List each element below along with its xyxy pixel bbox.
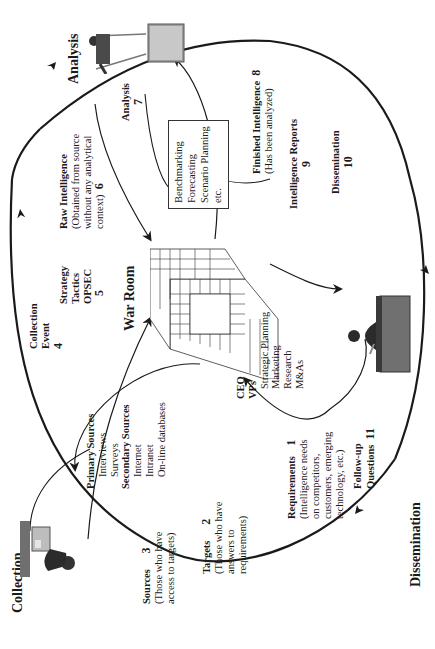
dissemination-step-title: Dissemination bbox=[330, 130, 342, 194]
requirements-number: 1 bbox=[284, 440, 298, 446]
tactics-line: Tactics bbox=[70, 266, 82, 304]
raw-intelligence-line: context) bbox=[94, 195, 105, 229]
analysis-method-item: Forecasting bbox=[185, 126, 198, 203]
step-dissemination: Dissemination 10 bbox=[330, 130, 355, 194]
secondary-source-item: On-line databases bbox=[156, 402, 168, 489]
targets-line: (Those who have bbox=[213, 502, 225, 574]
analysis-figure-icon bbox=[86, 0, 186, 74]
primary-source-item: Interviews bbox=[97, 402, 109, 489]
collection-event-title: Collection bbox=[28, 304, 40, 350]
arrow-to-executive bbox=[270, 264, 340, 289]
follow-up-title2: Questions bbox=[365, 445, 376, 489]
raw-intelligence-number: 6 bbox=[92, 183, 106, 189]
dissemination-figure-icon bbox=[340, 294, 412, 374]
sources-title: Sources bbox=[141, 569, 152, 604]
analysis-method-item: Benchmarking bbox=[172, 126, 185, 203]
sources-number: 3 bbox=[139, 547, 153, 553]
step-finished-intelligence: Finished Intelligence 8 (Has been analyz… bbox=[250, 70, 275, 174]
stage-label-analysis: Analysis bbox=[66, 33, 82, 84]
step-follow-up: Follow-up Questions 11 bbox=[352, 428, 377, 489]
step-strategy: Strategy Tactics OPSEC 5 bbox=[58, 266, 107, 304]
arrowhead-icon bbox=[16, 208, 25, 218]
stage-label-dissemination: Dissemination bbox=[408, 502, 424, 587]
raw-intelligence-line: without any analytical bbox=[82, 134, 94, 229]
finished-intelligence-sub: (Has been analyzed) bbox=[263, 70, 275, 174]
recipients-list: CEO VPs Strategic Planning Marketing Res… bbox=[235, 312, 306, 399]
requirements-line: on competitors, bbox=[310, 432, 322, 519]
analysis-methods-box: Benchmarking Forecasting Scenario Planni… bbox=[168, 120, 229, 209]
war-room-label: War Room bbox=[122, 266, 138, 331]
step-raw-intelligence: Raw Intelligence (Obtained from source w… bbox=[58, 134, 107, 229]
secondary-source-item: Internet bbox=[132, 402, 144, 489]
recipient-item: Research bbox=[282, 312, 294, 399]
dissemination-step-number: 10 bbox=[342, 130, 355, 194]
recipient-item: Strategic Planning bbox=[259, 312, 271, 399]
targets-line: answers to bbox=[225, 502, 237, 574]
step-collection-event: Collection Event 4 bbox=[28, 304, 65, 350]
step-targets: Targets 2 (Those who have answers to req… bbox=[200, 502, 249, 574]
secondary-sources-title: Secondary Sources bbox=[120, 402, 132, 489]
sources-line: access to targets) bbox=[165, 532, 177, 604]
secondary-source-item: Intranet bbox=[144, 402, 156, 489]
recipient-item: Marketing bbox=[270, 312, 282, 399]
sources-list: Primary Sources Interviews Surveys Secon… bbox=[85, 402, 167, 489]
step-sources: Sources 3 (Those who have access to targ… bbox=[140, 532, 177, 604]
primary-source-item: Surveys bbox=[109, 402, 121, 489]
collection-event-number: 4 bbox=[52, 304, 65, 350]
analysis-step-title: Analysis bbox=[120, 83, 132, 121]
requirements-line: (Intelligence needs bbox=[298, 432, 310, 519]
recipient-item-ceo: CEO bbox=[235, 312, 247, 399]
targets-title: Targets bbox=[201, 541, 212, 574]
strategy-number: 5 bbox=[93, 266, 106, 304]
intelligence-reports-number: 9 bbox=[300, 119, 313, 209]
finished-intelligence-number: 8 bbox=[249, 70, 263, 76]
step-requirements: Requirements 1 (Intelligence needs on co… bbox=[285, 432, 345, 519]
raw-intelligence-line: (Obtained from source bbox=[70, 134, 82, 229]
opsec-line: OPSEC bbox=[82, 266, 94, 304]
requirements-title: Requirements bbox=[286, 456, 297, 519]
analysis-method-item: Scenario Planning bbox=[198, 126, 211, 203]
sources-line: (Those who have bbox=[153, 532, 165, 604]
recipient-item: M&As bbox=[294, 312, 306, 399]
finished-intelligence-title: Finished Intelligence bbox=[251, 81, 262, 174]
targets-number: 2 bbox=[199, 519, 213, 525]
collection-event-title2: Event bbox=[40, 304, 52, 350]
targets-line: requirements) bbox=[237, 502, 249, 574]
strategy-line: Strategy bbox=[58, 266, 70, 304]
analysis-method-item: etc. bbox=[211, 126, 224, 203]
analysis-step-number: 7 bbox=[132, 83, 145, 121]
collection-figure-icon bbox=[18, 519, 80, 579]
intelligence-reports-title: Intelligence Reports bbox=[288, 119, 300, 209]
intelligence-cycle-diagram: Collection Analysis Dissemination bbox=[0, 0, 435, 649]
raw-intelligence-title: Raw Intelligence bbox=[58, 134, 70, 229]
follow-up-number: 11 bbox=[363, 428, 377, 439]
arrowhead-icon bbox=[355, 505, 364, 514]
step-intelligence-reports: Intelligence Reports 9 bbox=[288, 119, 313, 209]
recipient-item-vps: VPs bbox=[247, 312, 259, 399]
requirements-line: customers, emerging bbox=[322, 432, 334, 519]
step-analysis: Analysis 7 bbox=[120, 83, 145, 121]
requirements-line: technology, etc.) bbox=[334, 432, 346, 519]
primary-sources-title: Primary Sources bbox=[85, 402, 97, 489]
arrowhead-icon bbox=[47, 62, 56, 70]
